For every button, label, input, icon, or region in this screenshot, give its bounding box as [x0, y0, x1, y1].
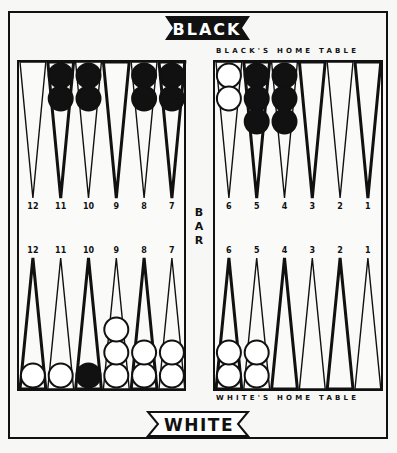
- point-triangle[interactable]: [103, 62, 129, 198]
- point-triangle[interactable]: [20, 62, 46, 198]
- black-checker[interactable]: [273, 87, 297, 111]
- white-checker[interactable]: [104, 364, 128, 388]
- white-checker[interactable]: [132, 341, 156, 365]
- black-checker[interactable]: [49, 87, 73, 111]
- point-number-label: 2: [332, 246, 348, 255]
- point-triangle[interactable]: [327, 258, 353, 389]
- white-checker[interactable]: [217, 87, 241, 111]
- black-checker[interactable]: [273, 64, 297, 88]
- point-triangle[interactable]: [355, 62, 381, 198]
- point-number-label: 1: [360, 202, 376, 211]
- point-number-label: 2: [332, 202, 348, 211]
- point-number-label: 11: [53, 202, 69, 211]
- point-triangle[interactable]: [299, 258, 325, 389]
- point-number-label: 10: [81, 202, 97, 211]
- white-checker[interactable]: [217, 64, 241, 88]
- white-checker[interactable]: [160, 341, 184, 365]
- black-checker[interactable]: [245, 64, 269, 88]
- point-triangle[interactable]: [355, 258, 381, 389]
- black-checker[interactable]: [77, 364, 101, 388]
- point-number-label: 4: [277, 202, 293, 211]
- point-number-label: 12: [25, 202, 41, 211]
- white-checker[interactable]: [245, 341, 269, 365]
- point-triangle[interactable]: [272, 258, 298, 389]
- white-checker[interactable]: [245, 364, 269, 388]
- point-number-label: 7: [164, 202, 180, 211]
- black-checker[interactable]: [132, 87, 156, 111]
- black-checker[interactable]: [160, 64, 184, 88]
- point-number-label: 8: [136, 202, 152, 211]
- black-checker[interactable]: [77, 64, 101, 88]
- white-checker[interactable]: [104, 318, 128, 342]
- point-number-label: 3: [304, 246, 320, 255]
- board-points: [0, 0, 397, 453]
- white-checker[interactable]: [49, 364, 73, 388]
- white-checker[interactable]: [160, 364, 184, 388]
- point-number-label: 6: [221, 202, 237, 211]
- white-checker[interactable]: [104, 341, 128, 365]
- white-checker[interactable]: [217, 364, 241, 388]
- point-number-label: 9: [108, 246, 124, 255]
- black-checker[interactable]: [273, 110, 297, 134]
- point-number-label: 3: [304, 202, 320, 211]
- point-number-label: 12: [25, 246, 41, 255]
- point-number-label: 11: [53, 246, 69, 255]
- point-triangle[interactable]: [327, 62, 353, 198]
- point-number-label: 5: [249, 246, 265, 255]
- point-number-label: 10: [81, 246, 97, 255]
- black-checker[interactable]: [160, 87, 184, 111]
- white-checker[interactable]: [132, 364, 156, 388]
- point-number-label: 5: [249, 202, 265, 211]
- point-number-label: 1: [360, 246, 376, 255]
- point-number-label: 7: [164, 246, 180, 255]
- point-triangle[interactable]: [299, 62, 325, 198]
- white-checker[interactable]: [21, 364, 45, 388]
- black-checker[interactable]: [49, 64, 73, 88]
- point-number-label: 8: [136, 246, 152, 255]
- black-checker[interactable]: [245, 87, 269, 111]
- white-checker[interactable]: [217, 341, 241, 365]
- point-number-label: 9: [108, 202, 124, 211]
- black-checker[interactable]: [77, 87, 101, 111]
- point-number-label: 6: [221, 246, 237, 255]
- point-number-label: 4: [277, 246, 293, 255]
- black-checker[interactable]: [132, 64, 156, 88]
- black-checker[interactable]: [245, 110, 269, 134]
